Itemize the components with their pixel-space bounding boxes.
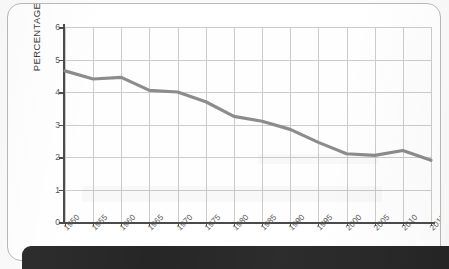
scanned-page: PERCENTAGE 0123456 195019551960196519701… [0,0,449,269]
y-tick-mark [59,190,63,192]
y-tick-mark [59,157,63,159]
y-tick-mark [59,92,63,94]
bottom-bar-sheen [22,246,449,269]
line-chart-figure: PERCENTAGE 0123456 195019551960196519701… [8,4,441,240]
bottom-dark-bar [22,246,449,269]
y-tick-mark [59,125,63,127]
series-line-percentage [65,71,431,160]
y-tick-mark [59,222,63,224]
chart-card: PERCENTAGE 0123456 195019551960196519701… [7,3,441,261]
y-tick-mark [59,27,63,29]
data-series-layer [8,4,441,240]
y-tick-mark [59,60,63,62]
